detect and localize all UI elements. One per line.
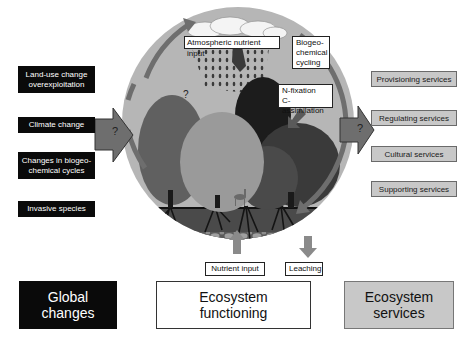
global-item-land-use: Land-use changeoverexploitation (18, 66, 95, 93)
nutrient-input-label: Nutrient input (205, 262, 265, 276)
nfixation-label: N-fixation C-assimilation (278, 84, 333, 108)
title-line: functioning (199, 305, 267, 321)
title-line: services (365, 305, 433, 321)
service-cultural: Cultural services (371, 146, 457, 162)
global-item-invasive: Invasive species (18, 201, 95, 217)
item-line: chemical cycles (22, 166, 91, 176)
item-line: Invasive species (27, 204, 86, 214)
global-item-biogeochem: Changes in biogeo-chemical cycles (18, 152, 95, 179)
nutrient-input-arrow-icon (233, 238, 241, 254)
item-line: overexploitation (26, 80, 88, 90)
biogeochemical-cycling-label: Biogeo- chemical cycling (292, 36, 330, 69)
global-changes-box: Globalchanges (19, 281, 117, 329)
item-line: Land-use change (26, 70, 88, 80)
item-line: Climate change (29, 120, 85, 130)
leaching-arrow-icon (304, 236, 312, 250)
title-line: changes (42, 305, 95, 321)
atmospheric-input-label: Atmospheric nutrient input (184, 36, 280, 49)
service-supporting: Supporting services (371, 181, 457, 197)
title-line: Ecosystem (199, 289, 267, 305)
right-arrow-question: ? (357, 122, 363, 134)
service-regulating: Regulating services (371, 110, 457, 126)
ecosystem-functioning-box: Ecosystemfunctioning (156, 281, 311, 329)
title-line: Ecosystem (365, 289, 433, 305)
label-line: C-assimilation (282, 96, 329, 116)
question-mark: ? (183, 89, 189, 100)
service-provisioning: Provisioning services (371, 71, 457, 87)
left-arrow-question: ? (112, 125, 118, 137)
label-line: Biogeo- (296, 38, 326, 48)
leaching-label: Leaching (285, 262, 323, 276)
item-line: Changes in biogeo- (22, 156, 91, 166)
title-line: Global (42, 289, 95, 305)
light-tree-icon (180, 112, 264, 212)
label-line: cycling (296, 58, 326, 68)
global-item-climate: Climate change (18, 117, 95, 133)
ecosystem-services-box: Ecosystemservices (344, 281, 454, 329)
label-line: chemical (296, 48, 326, 58)
label-line: N-fixation (282, 86, 329, 96)
